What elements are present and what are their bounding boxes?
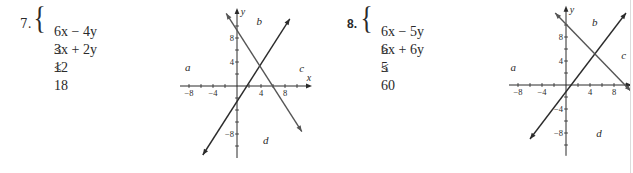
y-tick-label: 8 (559, 32, 563, 42)
x-tick-label: 8 (612, 87, 616, 97)
x-tick-label: 4 (588, 87, 593, 97)
y-tick-label: 4 (559, 56, 564, 66)
y-axis-label: y (569, 4, 575, 15)
region-label-c: c (621, 49, 626, 61)
x-tick-label: −4 (537, 87, 547, 97)
region-label-b: b (592, 16, 598, 28)
region-label-a: a (510, 61, 516, 73)
region-label-d: d (596, 127, 602, 139)
y-axis-arrow-icon (564, 6, 569, 12)
boundary-line (530, 13, 626, 139)
x-tick-label: −8 (513, 87, 522, 97)
y-tick-label: −8 (554, 128, 563, 138)
graph-problem-8: −8−44884−4−8yabcd (0, 0, 633, 173)
